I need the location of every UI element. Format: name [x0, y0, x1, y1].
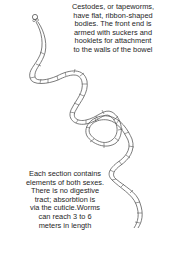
tapeworm-diagram: Cestodes, or tapeworms, have flat, ribbo…	[0, 0, 170, 256]
scolex-icon	[32, 14, 38, 21]
caption-scolex-description: Cestodes, or tapeworms, have flat, ribbo…	[56, 3, 170, 55]
caption-body-description: Each section contains elements of both s…	[10, 170, 120, 230]
